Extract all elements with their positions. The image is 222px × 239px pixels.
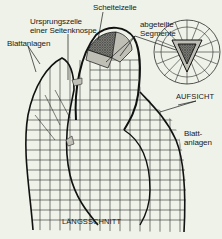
shoot-apex-diagram: Scheitelzelle Ursprungszelle einer Seite…: [0, 0, 222, 239]
label-anlagen: anlagen: [184, 139, 212, 148]
label-scheitelzelle: Scheitelzelle: [93, 4, 137, 13]
label-blattanlagen-left: Blattanlagen: [7, 40, 50, 49]
segment: [112, 32, 132, 62]
label-segmente: Segmente: [140, 30, 176, 39]
label-laengsschnitt: LÄNGSSCHNITT: [62, 218, 121, 227]
label-seitenknospe: einer Seitenknospe: [30, 27, 97, 36]
diagram-drawing: [0, 0, 222, 239]
cell-grid: [20, 60, 190, 232]
label-aufsicht: AUFSICHT: [176, 93, 214, 102]
inner-right-outline: [124, 130, 150, 225]
left-leaf-outline: [26, 58, 98, 230]
